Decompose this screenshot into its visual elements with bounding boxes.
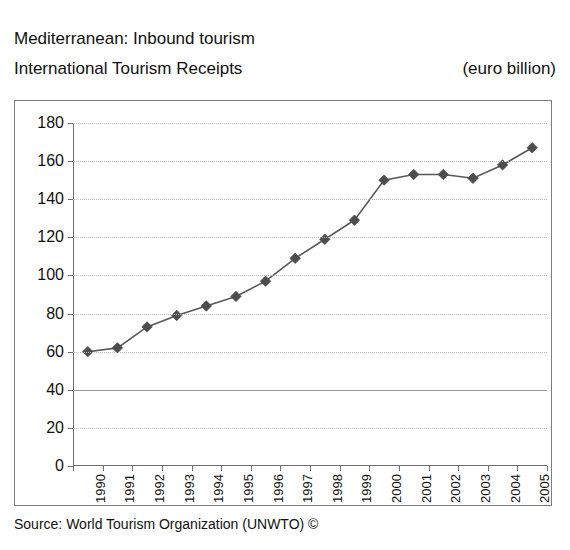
x-tick-11 xyxy=(399,466,400,471)
x-tick-4 xyxy=(192,466,193,471)
x-axis-label-2005: 2005 xyxy=(538,474,551,503)
chart-units-label: (euro billion) xyxy=(462,54,556,84)
y-axis-label-140: 140 xyxy=(37,191,64,207)
chart-title-secondary: International Tourism Receipts xyxy=(14,59,242,78)
data-point-1992 xyxy=(142,322,152,332)
data-point-2005 xyxy=(527,143,537,153)
x-tick-10 xyxy=(369,466,370,471)
x-tick-8 xyxy=(310,466,311,471)
x-axis-label-2002: 2002 xyxy=(449,474,462,503)
y-axis-label-20: 20 xyxy=(46,420,64,436)
x-axis-label-1990: 1990 xyxy=(94,474,107,503)
x-tick-15 xyxy=(517,466,518,471)
x-axis-label-1996: 1996 xyxy=(272,474,285,503)
data-point-2001 xyxy=(408,169,418,179)
x-axis-label-1999: 1999 xyxy=(360,474,373,503)
x-axis-label-1995: 1995 xyxy=(242,474,255,503)
x-tick-2 xyxy=(132,466,133,471)
x-axis-label-2003: 2003 xyxy=(479,474,492,503)
x-axis-label-1998: 1998 xyxy=(331,474,344,503)
x-axis-label-2004: 2004 xyxy=(509,474,522,503)
y-axis-label-180: 180 xyxy=(37,115,64,131)
y-tick-20 xyxy=(68,428,73,429)
chart-page: Mediterranean: Inbound tourism Internati… xyxy=(0,0,570,550)
gridline-20 xyxy=(73,428,547,429)
title-line-1: Mediterranean: Inbound tourism xyxy=(14,24,556,54)
y-tick-60 xyxy=(68,352,73,353)
gridline-100 xyxy=(73,275,547,276)
y-tick-180 xyxy=(68,123,73,124)
y-axis-label-100: 100 xyxy=(37,267,64,283)
x-axis-label-1994: 1994 xyxy=(212,474,225,503)
gridline-180 xyxy=(73,123,547,124)
y-axis-label-60: 60 xyxy=(46,344,64,360)
x-tick-14 xyxy=(488,466,489,471)
y-tick-160 xyxy=(68,161,73,162)
gridline-80 xyxy=(73,314,547,315)
x-axis-label-1993: 1993 xyxy=(183,474,196,503)
y-axis-label-40: 40 xyxy=(46,382,64,398)
x-axis-label-1991: 1991 xyxy=(123,474,136,503)
y-tick-100 xyxy=(68,275,73,276)
x-axis-label-1992: 1992 xyxy=(153,474,166,503)
x-tick-5 xyxy=(221,466,222,471)
x-tick-0 xyxy=(73,466,74,471)
data-point-1994 xyxy=(201,301,211,311)
y-tick-140 xyxy=(68,199,73,200)
y-axis-label-160: 160 xyxy=(37,153,64,169)
data-point-2003 xyxy=(468,173,478,183)
data-point-1998 xyxy=(320,234,330,244)
gridline-160 xyxy=(73,161,547,162)
gridline-40 xyxy=(73,390,547,391)
data-point-2002 xyxy=(438,169,448,179)
chart-frame: 0204060801001201401601801990199119921993… xyxy=(14,100,552,506)
series-line xyxy=(88,148,532,352)
x-tick-16 xyxy=(547,466,548,471)
x-axis-label-1997: 1997 xyxy=(301,474,314,503)
x-axis-label-2001: 2001 xyxy=(420,474,433,503)
chart-title-primary: Mediterranean: Inbound tourism xyxy=(14,29,255,48)
x-tick-13 xyxy=(458,466,459,471)
y-axis-label-0: 0 xyxy=(55,458,64,474)
y-axis-label-120: 120 xyxy=(37,229,64,245)
x-tick-3 xyxy=(162,466,163,471)
x-tick-9 xyxy=(340,466,341,471)
chart-title-block: Mediterranean: Inbound tourism Internati… xyxy=(14,24,556,84)
y-tick-80 xyxy=(68,314,73,315)
x-axis-label-2000: 2000 xyxy=(390,474,403,503)
x-tick-1 xyxy=(103,466,104,471)
source-note: Source: World Tourism Organization (UNWT… xyxy=(14,516,318,532)
gridline-140 xyxy=(73,199,547,200)
y-tick-120 xyxy=(68,237,73,238)
x-tick-6 xyxy=(251,466,252,471)
series-line-chart xyxy=(73,123,547,466)
data-point-1995 xyxy=(231,291,241,301)
gridline-120 xyxy=(73,237,547,238)
data-point-1993 xyxy=(171,310,181,320)
plot-area: 0204060801001201401601801990199119921993… xyxy=(73,123,547,466)
x-tick-12 xyxy=(429,466,430,471)
y-axis-label-80: 80 xyxy=(46,306,64,322)
x-tick-7 xyxy=(280,466,281,471)
gridline-60 xyxy=(73,352,547,353)
title-line-2: International Tourism Receipts (euro bil… xyxy=(14,54,556,84)
y-tick-40 xyxy=(68,390,73,391)
